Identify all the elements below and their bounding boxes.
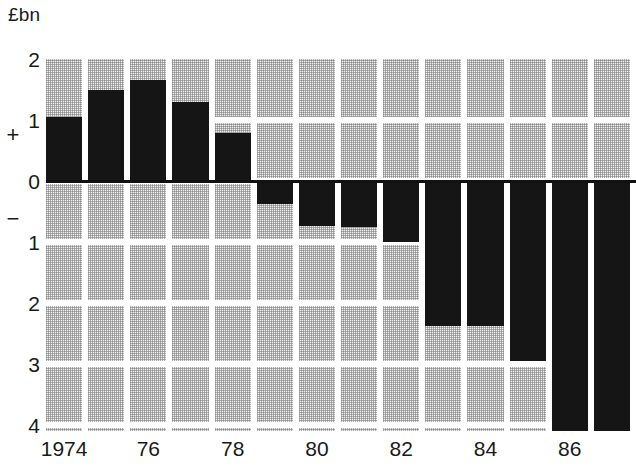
bar [215,133,251,181]
bar [172,102,208,181]
grid-cell [341,306,377,361]
x-axis-tick-label: 84 [474,438,497,459]
grid-cell [172,184,208,239]
grid-cell [383,245,419,300]
grid-cell [299,59,335,117]
grid-cell [467,367,503,422]
y-axis-tick-label: 1 [6,232,40,253]
grid-cell [46,184,82,239]
grid-cell [88,428,124,431]
grid-cell [215,184,251,239]
grid-cell [88,245,124,300]
grid-cell [257,59,293,117]
grid-cell [299,123,335,178]
grid-cell [130,184,166,239]
bar [552,181,588,431]
grid-cell [341,245,377,300]
negative-sign-mark: − [2,208,24,230]
positive-sign-mark: + [2,124,24,146]
grid-cell [215,306,251,361]
bar [257,181,293,204]
y-axis-tick-label: 4 [6,415,40,436]
grid-cell [341,428,377,431]
grid-cell [46,428,82,431]
grid-cell [257,367,293,422]
grid-cell [88,306,124,361]
grid-cell [215,367,251,422]
plot-area [46,59,636,431]
grid-cell [130,367,166,422]
bar [299,181,335,226]
bar [425,181,461,326]
x-axis-tick-label: 1974 [41,438,88,459]
grid-cell [299,245,335,300]
grid-cell [341,123,377,178]
grid-cell [383,428,419,431]
x-axis-tick-label: 76 [137,438,160,459]
bar [88,90,124,182]
bar [510,181,546,361]
bar [594,181,630,431]
grid-cell [172,306,208,361]
grid-cell [341,367,377,422]
grid-cell [172,367,208,422]
grid-cell [130,306,166,361]
grid-cell [383,306,419,361]
x-axis-tick-label: 82 [390,438,413,459]
grid-cell [46,245,82,300]
grid-cell [383,367,419,422]
grid-cell [425,428,461,431]
grid-cell [215,59,251,117]
grid-cell [257,428,293,431]
grid-cell [130,428,166,431]
grid-cell [383,123,419,178]
grid-cell [130,245,166,300]
grid-cell [467,428,503,431]
bar [383,181,419,242]
grid-cell [552,123,588,178]
x-axis-tick-label: 78 [221,438,244,459]
grid-cell [299,367,335,422]
x-axis-tick-label: 86 [558,438,581,459]
y-axis-tick-label: 2 [6,49,40,70]
grid-cell [425,123,461,178]
grid-cell [510,123,546,178]
grid-cell [46,59,82,117]
grid-cell [425,367,461,422]
bar [467,181,503,326]
grid-cell [215,245,251,300]
grid-cell [594,59,630,117]
grid-cell [257,245,293,300]
grid-cell [299,306,335,361]
grid-cell [467,59,503,117]
grid-cell [467,123,503,178]
grid-cell [594,123,630,178]
bar [46,117,82,181]
grid-cell [510,59,546,117]
grid-cell [46,306,82,361]
y-axis-tick-label: 3 [6,354,40,375]
grid-cell [88,367,124,422]
zero-baseline [46,180,636,183]
bar [130,80,166,181]
grid-cell [46,367,82,422]
y-axis-tick-label: 0 [6,171,40,192]
grid-cell [172,428,208,431]
grid-cell [510,428,546,431]
grid-cell [215,428,251,431]
grid-cell [88,184,124,239]
grid-cell [257,123,293,178]
grid-cell [341,59,377,117]
grid-cell [552,59,588,117]
grid-cell [299,428,335,431]
grid-cell [383,59,419,117]
chart-root: £bn 2101234+− 1974767880828486 [0,0,636,471]
grid-cell [510,367,546,422]
x-axis-tick-label: 80 [305,438,328,459]
bar [341,181,377,227]
y-axis-tick-column: 2101234+− [0,0,40,471]
grid-cell [425,59,461,117]
y-axis-tick-label: 2 [6,293,40,314]
grid-cell [172,245,208,300]
grid-cell [257,306,293,361]
